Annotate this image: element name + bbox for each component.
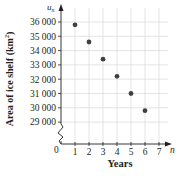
y-tick-label: 35 000 (30, 32, 56, 42)
y-axis-title: Area of ice shelf (km2) (4, 32, 16, 127)
data-point (129, 91, 134, 96)
data-point (115, 74, 120, 79)
x-tick-label: 7 (157, 147, 162, 157)
y-tick-label: 36 000 (30, 17, 56, 27)
scatter-chart: 123456729 00030 00031 00032 00033 00034 … (0, 0, 180, 177)
x-axis-title: Years (95, 158, 145, 169)
y-tick-label: 32 000 (30, 75, 56, 85)
tick-labels: 123456729 00030 00031 00032 00033 00034 … (30, 17, 162, 157)
data-point (143, 108, 148, 113)
origin-label: 0 (54, 145, 59, 155)
y-axis-symbol: un (47, 2, 55, 13)
data-point (73, 22, 78, 27)
x-tick-label: 6 (143, 147, 148, 157)
y-tick-label: 33 000 (30, 60, 56, 70)
x-tick-label: 3 (101, 147, 106, 157)
x-tick-label: 2 (87, 147, 92, 157)
y-axis-arrow-icon (59, 4, 64, 11)
x-tick-label: 1 (73, 147, 78, 157)
ticks (58, 22, 159, 146)
y-tick-label: 34 000 (30, 46, 56, 56)
x-axis-symbol: n (170, 145, 175, 155)
y-tick-label: 30 000 (30, 103, 56, 113)
y-tick-label: 31 000 (30, 89, 56, 99)
x-tick-label: 4 (115, 147, 120, 157)
y-tick-label: 29 000 (30, 117, 56, 127)
data-point (101, 57, 106, 62)
grid-lines (61, 8, 168, 144)
data-point (87, 40, 92, 45)
x-tick-label: 5 (129, 147, 134, 157)
